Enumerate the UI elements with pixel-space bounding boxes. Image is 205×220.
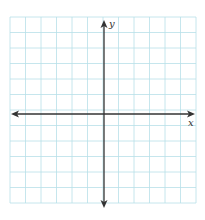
y-axis-label: y [108,18,115,29]
x-axis-label: x [188,117,194,128]
coordinate-plane: x y [0,0,205,220]
grid [10,17,196,203]
